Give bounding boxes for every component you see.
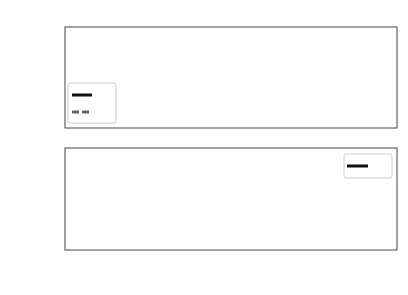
legend-box (68, 83, 116, 123)
figure (0, 0, 408, 295)
prices-chart (0, 0, 397, 128)
